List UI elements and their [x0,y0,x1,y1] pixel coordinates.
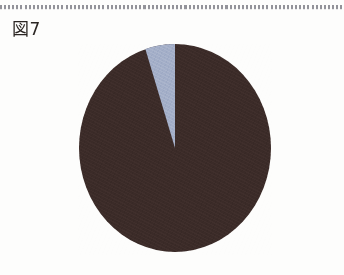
pie-chart-svg [78,44,272,255]
figure-page: 図7 [0,0,344,275]
page-divider-dotted-rule [0,5,344,9]
figure-caption: 図7 [12,19,41,40]
pie-chart [78,44,272,255]
divider-dots-shadow [0,8,344,10]
